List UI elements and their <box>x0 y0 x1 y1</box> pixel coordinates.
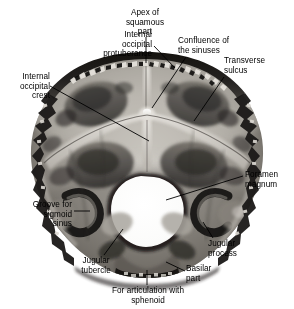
label-transverse-sulcus: Transverse sulcus <box>224 56 290 75</box>
label-internal-occipital-crest: Internal occipital crest <box>2 72 50 101</box>
label-groove-for-sigmoid-sinus: Groove for sigmoid sinus <box>8 200 72 229</box>
label-jugular-process: Jugular process <box>208 239 260 258</box>
label-for-articulation-with-sphenoid: For articulation with sphenoid <box>90 286 206 305</box>
label-jugular-tubercle: Jugular tubercle <box>70 256 122 275</box>
label-internal-occipital-protuberance: Internal occipital protuberance <box>56 30 152 59</box>
label-confluence-of-the-sinuses: Confluence of the sinuses <box>178 36 260 55</box>
label-basilar-part: Basilar part <box>186 264 226 283</box>
label-foramen-magnum: Foramen magnum <box>245 170 294 189</box>
